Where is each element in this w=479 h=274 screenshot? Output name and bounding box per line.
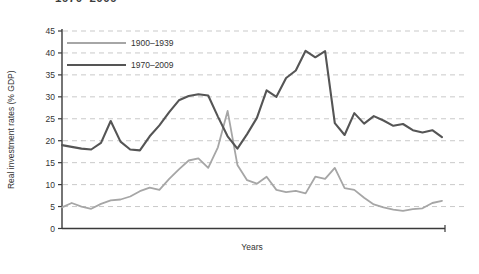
y-axis-title: Real investment rates (% GDP) bbox=[6, 70, 16, 189]
legend-label-1970-2009: 1970–2009 bbox=[131, 60, 174, 70]
y-tick-label-5: 5 bbox=[50, 202, 55, 212]
investment-rates-line-chart: 051015202530354045Real investment rates … bbox=[0, 0, 479, 274]
y-tick-label-40: 40 bbox=[46, 48, 56, 58]
cropped-title-label: 1970–2009 bbox=[55, 0, 175, 4]
y-tick-label-15: 15 bbox=[46, 158, 56, 168]
legend-label-1900-1939: 1900–1939 bbox=[131, 38, 174, 48]
figure-canvas: 1970–2009 051015202530354045Real investm… bbox=[0, 0, 479, 274]
y-tick-label-10: 10 bbox=[46, 180, 56, 190]
y-tick-label-30: 30 bbox=[46, 92, 56, 102]
y-tick-label-35: 35 bbox=[46, 70, 56, 80]
y-tick-label-45: 45 bbox=[46, 26, 56, 36]
cropped-title-text: 1970–2009 bbox=[55, 0, 175, 6]
x-axis-title: Years bbox=[241, 242, 262, 252]
y-tick-label-25: 25 bbox=[46, 114, 56, 124]
y-tick-label-0: 0 bbox=[50, 224, 55, 234]
y-tick-label-20: 20 bbox=[46, 136, 56, 146]
